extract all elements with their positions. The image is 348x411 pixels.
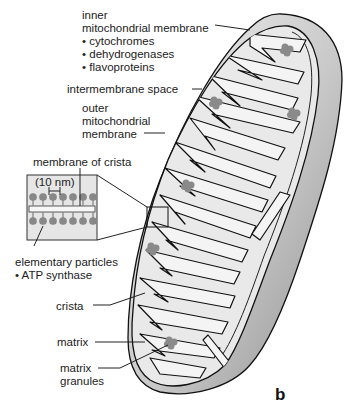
label-elementary-particles: elementary particles <box>15 256 118 268</box>
label-inner: inner <box>82 9 108 21</box>
label-dehydrogenases: • dehydrogenases <box>82 48 175 60</box>
zoom-connector-top <box>97 175 147 207</box>
particle-head <box>90 194 96 200</box>
particle-head <box>70 218 76 224</box>
label-outer-mitochondrial: mitochondrial <box>82 115 150 127</box>
label-intermembrane-space: intermembrane space <box>67 83 178 95</box>
label-matrix-granules-2: granules <box>60 375 104 387</box>
label-atp-synthase: • ATP synthase <box>15 269 92 281</box>
label-scale: (10 nm) <box>35 176 75 188</box>
label-outer: outer <box>82 102 108 114</box>
particle-head <box>30 194 36 200</box>
label-matrix-granules-1: matrix <box>60 362 92 374</box>
particle-head <box>30 218 36 224</box>
particle-head <box>90 218 96 224</box>
particle-head <box>60 218 66 224</box>
particle-head <box>80 194 86 200</box>
label-membrane-of-crista: membrane of crista <box>33 156 132 168</box>
label-matrix: matrix <box>57 336 89 348</box>
label-cytochromes: • cytochromes <box>82 35 155 47</box>
particle-head <box>40 194 46 200</box>
particle-head <box>80 218 86 224</box>
label-flavoproteins: • flavoproteins <box>82 61 155 73</box>
zoom-connector-bottom <box>97 227 147 240</box>
label-crista: crista <box>56 300 84 312</box>
particle-head <box>60 194 66 200</box>
mitochondrion-diagram: inner mitochondrial membrane • cytochrom… <box>0 0 348 411</box>
particle-head <box>40 218 46 224</box>
particle-head <box>50 194 56 200</box>
particle-head <box>50 218 56 224</box>
panel-label: b <box>275 385 285 404</box>
leader-inner-membrane <box>215 25 250 30</box>
label-outer-membrane: membrane <box>82 128 137 140</box>
particle-head <box>70 194 76 200</box>
label-inner-membrane: mitochondrial membrane <box>82 22 209 34</box>
